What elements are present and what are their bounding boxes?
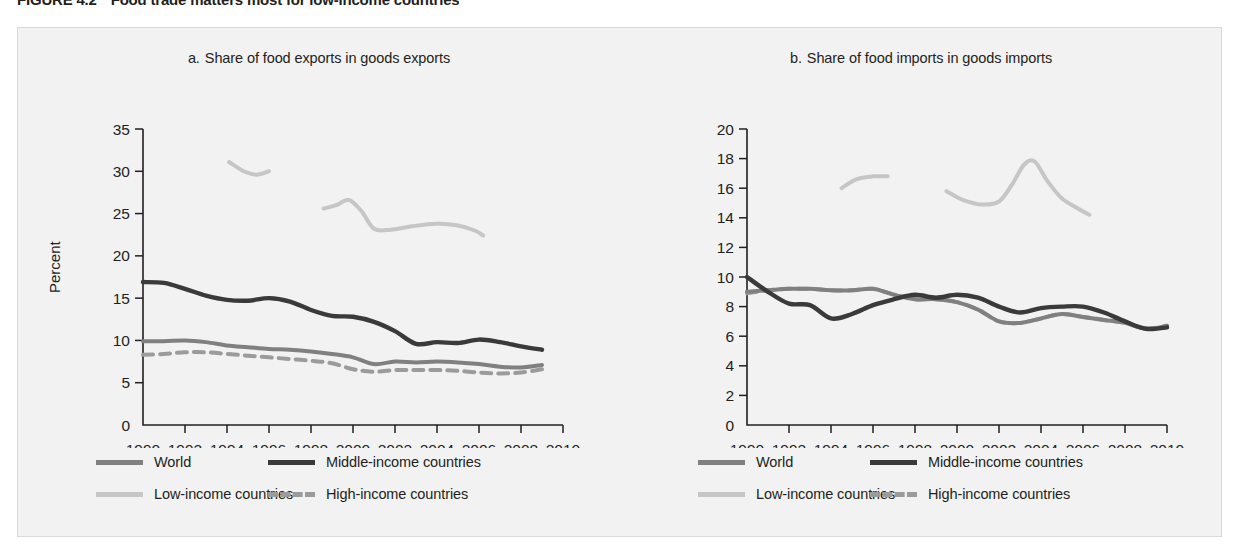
legend-label-high-income: High-income countries: [928, 486, 1070, 502]
svg-text:10: 10: [717, 269, 735, 286]
svg-text:20: 20: [113, 247, 131, 264]
legend-item-low-income: Low-income countries: [620, 486, 870, 502]
svg-text:30: 30: [113, 163, 131, 180]
legend-label-world: World: [154, 454, 191, 470]
figure-title-text: Food trade matters most for low-income c…: [111, 0, 460, 7]
figure-title: FIGURE 4.2Food trade matters most for lo…: [17, 0, 459, 7]
legend-swatch-high-income: [268, 492, 315, 497]
svg-text:8: 8: [725, 298, 734, 315]
svg-text:25: 25: [113, 205, 130, 222]
panel-b-legend: World Middle-income countries Low-income…: [620, 446, 1222, 510]
legend-item-high-income: High-income countries: [870, 486, 1170, 502]
legend-item-world: World: [620, 454, 870, 470]
legend-swatch-world: [96, 460, 143, 465]
svg-text:5: 5: [121, 374, 130, 391]
svg-text:2: 2: [725, 387, 734, 404]
legend-item-middle-income: Middle-income countries: [268, 454, 568, 470]
legend-label-middle-income: Middle-income countries: [326, 454, 481, 470]
legend-item-low-income: Low-income countries: [18, 486, 268, 502]
svg-text:20: 20: [717, 121, 735, 138]
svg-text:16: 16: [717, 180, 734, 197]
legend-swatch-high-income: [870, 492, 917, 497]
svg-text:14: 14: [717, 209, 735, 226]
svg-text:18: 18: [717, 150, 734, 167]
svg-text:4: 4: [725, 357, 734, 374]
svg-text:0: 0: [121, 417, 130, 434]
legend-swatch-middle-income: [268, 460, 315, 465]
svg-text:15: 15: [113, 290, 130, 307]
panel-b-plot: 0246810121416182019901992199419961998200…: [620, 28, 1222, 448]
svg-text:10: 10: [113, 332, 131, 349]
legend-swatch-low-income: [698, 492, 745, 497]
svg-text:0: 0: [725, 417, 734, 434]
legend-item-high-income: High-income countries: [268, 486, 568, 502]
panel-a-plot: 0510152025303519901992199419961998200020…: [18, 28, 620, 448]
legend-swatch-world: [698, 460, 745, 465]
chart-panel-a: a.Share of food exports in goods exports…: [18, 28, 620, 538]
svg-text:6: 6: [725, 328, 734, 345]
legend-label-high-income: High-income countries: [326, 486, 468, 502]
legend-item-middle-income: Middle-income countries: [870, 454, 1170, 470]
legend-label-world: World: [756, 454, 793, 470]
figure-panel-box: a.Share of food exports in goods exports…: [17, 27, 1222, 537]
svg-text:12: 12: [717, 239, 734, 256]
figure-number: FIGURE 4.2: [17, 0, 97, 7]
legend-swatch-low-income: [96, 492, 143, 497]
panel-a-legend: World Middle-income countries Low-income…: [18, 446, 620, 510]
legend-swatch-middle-income: [870, 460, 917, 465]
chart-panel-b: b.Share of food imports in goods imports…: [620, 28, 1222, 538]
svg-text:35: 35: [113, 121, 130, 138]
legend-label-middle-income: Middle-income countries: [928, 454, 1083, 470]
legend-item-world: World: [18, 454, 268, 470]
